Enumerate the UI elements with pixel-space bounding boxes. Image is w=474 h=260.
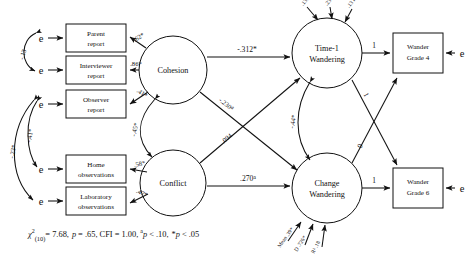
error-term-observer: e	[39, 99, 44, 110]
structural-label-conflict-time1: .094	[220, 131, 234, 144]
indicator-label-parent-line2: report	[88, 40, 105, 48]
indicator-label-wander4-line1: Wander	[407, 43, 430, 51]
indicator-label-wander6-line2: Grade 6	[407, 189, 430, 197]
indicator-label-parent-line1: Parent	[87, 30, 105, 38]
latent-circle-cohesion: Cohesion	[139, 36, 207, 104]
loading-label-cohesion-interviewer: .86*	[130, 60, 142, 67]
fit-note-a-rest: < .10,	[149, 230, 168, 239]
fit-chi-sup: 2	[32, 228, 35, 234]
covariance-curve-cohesion-conflict	[140, 99, 155, 157]
path-d-to-change	[305, 224, 313, 245]
error-term-wander4: e	[460, 48, 465, 59]
loading-label-change-wander6: 1	[372, 176, 376, 185]
indicator-label-interviewer-line1: Interviewer	[80, 62, 113, 70]
structural-label-cohesion-change: -.230a	[218, 95, 236, 112]
path-mean-to-time1	[307, 7, 318, 20]
covariance-curve-observer-laboratory	[14, 100, 34, 200]
fit-p-label: p	[71, 230, 76, 239]
fit-note-star-p: p	[175, 230, 180, 239]
error-term-home: e	[39, 164, 44, 175]
covariance-label-parent-interviewer: -.13	[18, 48, 28, 61]
growth-label-change-r2: R² .18	[310, 239, 322, 254]
indicator-box-wander-grade-6: Wander Grade 6	[393, 168, 443, 208]
fit-statistics: χ2(10)= 7.68,p= .65, CFI = 1.00,ap< .10,…	[27, 228, 199, 243]
growth-label-change-mean: Mean .39*	[276, 226, 295, 249]
indicator-box-observer: Observer report	[66, 90, 126, 118]
indicator-label-wander4-line2: Grade 4	[407, 54, 430, 62]
covariance-label-cohesion-conflict: -.45*	[130, 122, 140, 137]
error-term-wander6: e	[460, 183, 465, 194]
error-term-parent: e	[39, 33, 44, 44]
svg-text:χ2(10)= 7.68,p= .65, CFI = 1.0: χ2(10)= 7.68,p= .65, CFI = 1.00,ap< .10,…	[27, 228, 199, 243]
fit-note-a-p: p	[142, 230, 147, 239]
indicator-label-interviewer-line2: report	[88, 72, 105, 80]
error-term-laboratory: e	[39, 196, 44, 207]
latent-label-time1-line2: Wandering	[309, 55, 345, 64]
indicator-box-home: Home observations	[66, 155, 126, 183]
latent-circle-change-wandering: Change Wandering	[292, 153, 362, 223]
indicator-box-interviewer: Interviewer report	[66, 56, 126, 84]
indicator-box-wander-grade-4: Wander Grade 4	[393, 33, 443, 73]
latent-label-change-line1: Change	[314, 179, 339, 188]
growth-label-time1-mean: .131*Mean	[299, 0, 320, 7]
path-d-to-time1	[330, 7, 332, 19]
covariance-label-observer-home: -.41*	[25, 128, 34, 143]
structural-label-cohesion-time1: -.312*	[237, 45, 257, 54]
path-conflict-to-time1	[200, 78, 300, 163]
path-r2-to-change	[322, 225, 325, 247]
latent-label-cohesion: Cohesion	[158, 66, 189, 75]
path-time1-to-wander6	[352, 80, 397, 165]
fit-chi-sub: (10)	[35, 235, 46, 243]
covariance-label-time1-change: -.44*	[288, 114, 297, 129]
fit-chi-value: = 7.68,	[45, 230, 69, 239]
loading-label-change-wander4: 0	[355, 142, 365, 150]
path-cohesion-to-change	[200, 92, 297, 170]
indicator-label-wander6-line1: Wander	[407, 178, 430, 186]
growth-label-time1-r2: .13 R²	[345, 0, 359, 9]
loading-label-cohesion-parent: .62*	[132, 31, 146, 43]
indicator-label-observer-line1: Observer	[83, 96, 110, 104]
indicator-box-laboratory: Laboratory observations	[66, 187, 126, 215]
path-change-to-wander4	[352, 78, 397, 163]
indicator-label-home-line2: observations	[78, 171, 114, 179]
indicator-label-home-line1: Home	[87, 161, 104, 169]
fit-note-star-rest: < .05	[182, 230, 199, 239]
loading-label-time1-wander6: 1	[361, 91, 371, 99]
diagram-canvas: Parent report Interviewer report Observe…	[0, 0, 474, 260]
growth-label-time1-d: .234*D	[323, 0, 338, 7]
latent-circle-conflict: Conflict	[140, 150, 206, 216]
covariance-label-observer-laboratory: -.23*	[8, 144, 17, 159]
error-term-interviewer: e	[39, 65, 44, 76]
indicator-label-observer-line2: report	[88, 106, 105, 114]
latent-circle-time1-wandering: Time-1 Wandering	[292, 18, 362, 88]
covariance-curve-time1-change	[298, 82, 310, 160]
indicator-label-laboratory-line1: Laboratory	[80, 193, 112, 201]
path-r2-to-time1	[345, 9, 352, 22]
latent-label-change-line2: Wandering	[309, 190, 345, 199]
indicator-label-laboratory-line2: observations	[78, 203, 114, 211]
sem-path-diagram: Parent report Interviewer report Observe…	[0, 0, 474, 260]
latent-label-conflict: Conflict	[160, 179, 188, 188]
fit-p-value: = .65, CFI = 1.00,	[78, 230, 138, 239]
indicator-box-parent: Parent report	[66, 24, 126, 52]
latent-label-time1-line1: Time-1	[315, 44, 339, 53]
loading-label-time1-wander4: 1	[372, 41, 376, 50]
structural-label-conflict-change: .270a	[240, 174, 256, 184]
